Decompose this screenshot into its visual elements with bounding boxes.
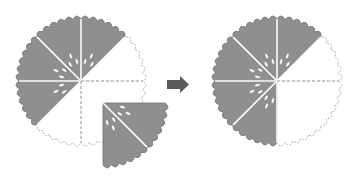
diagram-canvas: [0, 0, 359, 181]
arrow-right-icon: [167, 76, 189, 93]
detached-slice: [103, 103, 168, 168]
diagram-svg: [0, 0, 359, 181]
